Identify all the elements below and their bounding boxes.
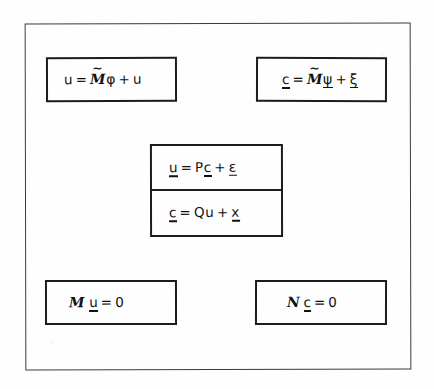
symbol-equals: = (178, 159, 195, 175)
symbol-x: x (231, 205, 240, 220)
operator-M: M (69, 294, 85, 310)
symbol-c-lhs: c (282, 73, 290, 88)
symbol-equals: = (73, 71, 90, 87)
symbol-plus: + (212, 158, 229, 174)
equation-box-M-u-equals-zero: Mu=0 (45, 280, 177, 325)
figure-canvas: u=Mφ+u c=Mψ+ξ u=Pc+ε c=Qu+x Mu=0 Nc (0, 0, 434, 389)
symbol-plus: + (214, 203, 231, 219)
symbol-plus: + (333, 71, 350, 87)
symbol-u-lhs: u (169, 161, 178, 176)
symbol-zero: 0 (328, 294, 337, 310)
symbol-equals: = (311, 294, 328, 310)
symbol-epsilon: ε (229, 159, 237, 174)
symbol-c-operand: c (303, 296, 311, 311)
symbol-u-lhs: u (64, 72, 73, 88)
equation-text-M-u-zero: Mu=0 (69, 295, 124, 311)
symbol-xi: ξ (350, 72, 358, 87)
symbol-c-operand: c (204, 160, 212, 175)
equation-box-center-stack: u=Pc+ε c=Qu+x (150, 144, 283, 237)
equation-text-c-Qu-x: c=Qu+x (169, 205, 240, 220)
symbol-equals: = (98, 294, 115, 310)
equation-cell-c-equals-Qu: c=Qu+x (152, 190, 281, 235)
operator-Qu: Qu (194, 203, 215, 219)
equation-box-N-c-equals-zero: Nc=0 (255, 280, 387, 325)
symbol-u-rhs: u (133, 71, 142, 87)
symbol-equals: = (177, 204, 194, 220)
equation-text-c-modal: c=Mψ+ξ (282, 72, 358, 88)
equation-box-u-modal-expansion: u=Mφ+u (46, 57, 177, 102)
operator-P: P (195, 159, 204, 175)
operator-N: N (287, 294, 300, 310)
symbol-phi: φ (106, 71, 116, 87)
symbol-equals: = (290, 71, 307, 87)
symbol-plus: + (116, 71, 133, 87)
symbol-u-operand: u (89, 296, 98, 311)
symbol-zero: 0 (115, 294, 124, 310)
equation-text-N-c-zero: Nc=0 (287, 295, 338, 311)
symbol-c-lhs: c (169, 206, 177, 221)
equation-text-u-Pc-epsilon: u=Pc+ε (169, 159, 237, 175)
operator-M-tilde: M (307, 72, 323, 86)
operator-M-tilde: M (90, 72, 106, 86)
equation-box-c-modal-expansion: c=Mψ+ξ (256, 57, 387, 102)
equation-text-u-modal: u=Mφ+u (64, 72, 142, 87)
symbol-psi: ψ (323, 72, 333, 87)
equation-cell-u-equals-Pc: u=Pc+ε (152, 146, 281, 191)
